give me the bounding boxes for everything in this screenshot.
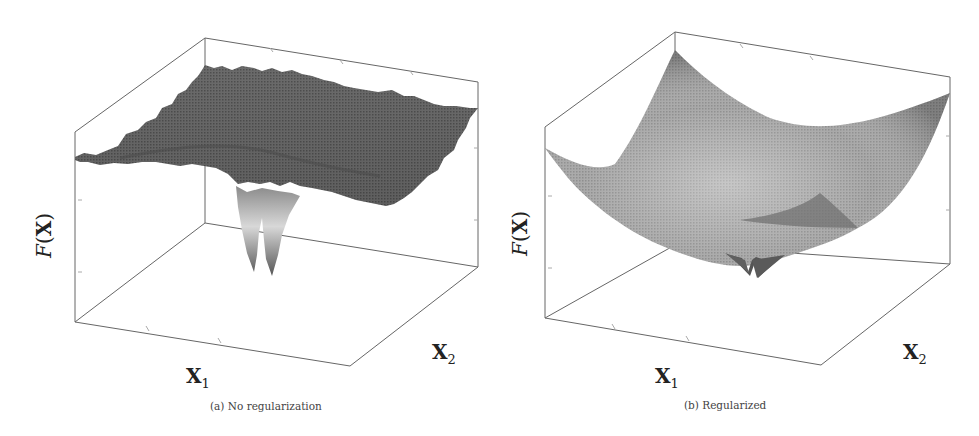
y-axis-label-b: F(X) xyxy=(508,211,532,256)
surface-plot-b xyxy=(0,0,979,436)
panel-regularized: F(X) X1 X2 (b) Regularized xyxy=(0,0,490,436)
bowl-surface xyxy=(545,50,950,278)
x2-axis-label-b: X2 xyxy=(903,340,927,367)
x1-axis-label-b: X1 xyxy=(655,364,679,391)
caption-b: (b) Regularized xyxy=(684,399,766,411)
